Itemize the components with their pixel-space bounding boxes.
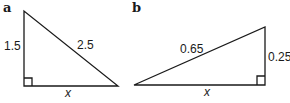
triangle-b-vertical-length: 0.25 — [268, 51, 290, 63]
triangles-diagram — [0, 0, 290, 103]
triangle-b-base-length: x — [204, 86, 210, 98]
triangle-b-hypotenuse-length: 0.65 — [180, 43, 203, 55]
right-angle-marker-b — [257, 76, 265, 85]
triangle-b — [134, 27, 265, 85]
triangle-a-label: a — [3, 2, 11, 14]
triangle-a-hypotenuse-length: 2.5 — [77, 39, 94, 51]
triangle-a — [24, 11, 118, 86]
triangle-a-base-length: x — [65, 87, 71, 99]
triangle-b-label: b — [132, 2, 141, 14]
triangle-a-vertical-length: 1.5 — [4, 40, 21, 52]
right-angle-marker-a — [24, 78, 32, 86]
